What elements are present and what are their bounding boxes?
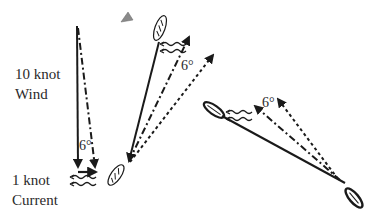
boat-icon-top (151, 14, 169, 42)
angle-label-left: 6° (79, 138, 92, 153)
boat-track-solid (129, 42, 159, 161)
sailing-current-diagram: 6° 6° (0, 0, 377, 220)
heading-vector-dashdot-right (255, 106, 340, 180)
wind-vector-solid (77, 26, 78, 167)
boat-icon-right (343, 186, 365, 210)
current-wave-icon (70, 175, 96, 186)
middle-vector-diagram: 6° (105, 14, 213, 188)
course-vector-dotted-right (278, 99, 338, 179)
left-vector-diagram: 6° (70, 26, 96, 186)
boat-icon-bottom (105, 162, 127, 187)
right-vector-diagram: 6° (202, 95, 366, 210)
mark-buoy-icon (121, 12, 133, 22)
angle-label-right: 6° (262, 95, 275, 110)
boat-track-solid-right (222, 116, 345, 183)
angle-label-middle: 6° (181, 58, 194, 73)
